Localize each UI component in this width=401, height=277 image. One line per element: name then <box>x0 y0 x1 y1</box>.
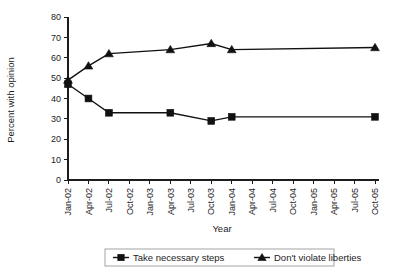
x-axis-tick-label: Jan-02 <box>63 188 73 216</box>
data-point-marker-triangle <box>64 76 73 83</box>
x-axis-group: Jan-02Apr-02Jul-02Oct-02Jan-03Apr-03Jul-… <box>63 180 380 216</box>
series-1 <box>65 81 379 124</box>
x-axis-tick-label: Oct-05 <box>370 188 380 215</box>
chart-legend: Take necessary stepsDon't violate libert… <box>105 249 362 266</box>
y-axis-tick-label: 50 <box>51 73 61 83</box>
data-point-marker-square <box>85 95 92 102</box>
chart-figure: 01020304050607080 Jan-02Apr-02Jul-02Oct-… <box>0 0 401 277</box>
y-axis-tick-label: 0 <box>56 175 61 185</box>
data-point-marker-square <box>228 113 235 120</box>
data-point-marker-square <box>106 109 113 116</box>
x-axis-tick-label: Oct-04 <box>288 188 298 215</box>
series-line-path <box>68 84 375 121</box>
chart-canvas: 01020304050607080 Jan-02Apr-02Jul-02Oct-… <box>0 0 401 277</box>
data-point-marker-triangle <box>207 39 216 46</box>
x-axis-tick-label: Apr-04 <box>247 188 257 215</box>
x-axis-tick-label: Jul-02 <box>104 188 114 213</box>
y-axis-title: Percent with opinion <box>5 57 16 143</box>
x-axis-tick-label: Jul-05 <box>350 188 360 213</box>
x-axis-tick-label: Apr-05 <box>329 188 339 215</box>
series-plot-area <box>64 39 380 124</box>
data-point-marker-square <box>208 118 215 125</box>
series-line-path <box>68 43 375 80</box>
x-axis-tick-label: Jan-03 <box>145 188 155 216</box>
legend-marker-square <box>118 254 124 260</box>
x-axis-title: Year <box>212 223 231 234</box>
series-2 <box>64 39 380 83</box>
legend-item-label: Take necessary steps <box>133 252 225 263</box>
x-axis-tick-label: Jul-04 <box>268 188 278 213</box>
y-axis-tick-label: 40 <box>51 94 61 104</box>
data-point-marker-square <box>167 109 174 116</box>
x-axis-tick-label: Apr-03 <box>166 188 176 215</box>
y-axis-tick-label: 60 <box>51 53 61 63</box>
x-axis-tick-label: Oct-02 <box>125 188 135 215</box>
y-axis-tick-label: 80 <box>51 12 61 22</box>
y-axis-tick-label: 70 <box>51 33 61 43</box>
x-axis-tick-label: Jan-04 <box>227 188 237 216</box>
y-axis-tick-label: 10 <box>51 155 61 165</box>
data-point-marker-triangle <box>84 62 93 69</box>
x-axis-tick-label: Oct-03 <box>206 188 216 215</box>
x-axis-tick-label: Apr-02 <box>84 188 94 215</box>
legend-item-label: Don't violate liberties <box>274 252 362 263</box>
data-point-marker-square <box>372 113 379 120</box>
y-axis-ticks: 01020304050607080 <box>51 12 68 185</box>
y-axis-group: 01020304050607080 <box>51 12 68 185</box>
x-axis-tick-label: Jan-05 <box>309 188 319 216</box>
x-axis-tick-label: Jul-03 <box>186 188 196 213</box>
y-axis-tick-label: 30 <box>51 114 61 124</box>
x-axis-ticks: Jan-02Apr-02Jul-02Oct-02Jan-03Apr-03Jul-… <box>63 180 380 216</box>
y-axis-tick-label: 20 <box>51 134 61 144</box>
